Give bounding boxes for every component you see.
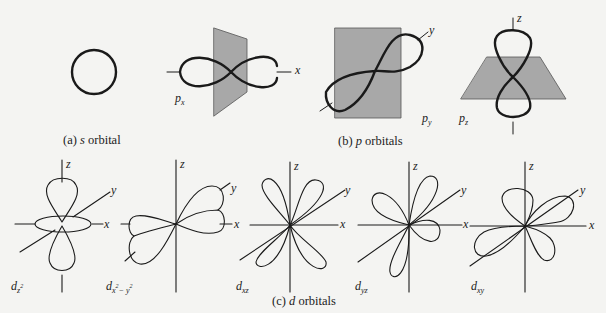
dxy-z-label: z [529, 160, 534, 172]
dz2-x-label: x [104, 218, 109, 230]
dxz-x-label: x [340, 218, 345, 230]
dx2y2-y-label: y [231, 182, 236, 194]
dyz-orbital [358, 162, 462, 292]
caption-d-orbitals: (c) d orbitals [272, 295, 336, 308]
dxz-y-label: y [345, 184, 350, 196]
dz2-orbital [15, 160, 110, 292]
s-orbital [72, 50, 116, 94]
dxz-z-label: z [294, 160, 299, 172]
px-label: px [175, 92, 185, 107]
dyz-z-label: z [413, 160, 418, 172]
dyz-x-label: x [463, 218, 468, 230]
dz2-z-label: z [66, 158, 71, 170]
py-orbital [320, 28, 428, 118]
dz2-label: dz2 [11, 280, 23, 295]
dxz-label: dxz [236, 280, 249, 295]
dxy-x-label: x [589, 219, 594, 231]
pz-label: pz [459, 112, 468, 127]
orbital-diagram [0, 0, 606, 313]
dxy-label: dxy [471, 280, 484, 295]
py-label: py [422, 112, 432, 127]
dyz-label: dyz [355, 280, 368, 295]
dx2-y2-label: dx2− y2 [106, 280, 133, 295]
py-axis-label: y [429, 24, 434, 36]
pz-orbital [461, 18, 566, 134]
dxy-y-label: y [580, 184, 585, 196]
caption-p-orbitals: (b) p orbitals [338, 135, 403, 148]
caption-s-orbital: (a) s orbital [63, 134, 121, 147]
dz2-y-label: y [111, 184, 116, 196]
px-axis-label: x [295, 64, 300, 76]
dx2y2-x-label: x [234, 218, 239, 230]
px-orbital [167, 28, 291, 116]
dxz-orbital [240, 162, 345, 292]
dx2-y2-orbital [121, 160, 232, 292]
pz-axis-label: z [517, 12, 522, 24]
dxy-orbital [470, 162, 586, 292]
dx2y2-z-label: z [180, 158, 185, 170]
dyz-y-label: y [461, 184, 466, 196]
